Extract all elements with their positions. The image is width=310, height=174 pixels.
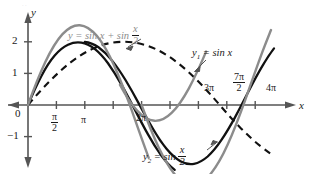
annotation-sum-curve: y = sin x + sin x2	[68, 24, 139, 46]
x-tick-label-pi-over-2: π2	[51, 112, 58, 133]
annotation-sum-den: 2	[132, 36, 139, 47]
x-tick-pi-over-2-den: 2	[51, 123, 58, 133]
annotation-sum-num: x	[132, 24, 139, 36]
x-tick-label-3pi: 3π	[204, 83, 214, 93]
x-tick-label-pi: π	[81, 115, 86, 125]
y-axis-label: y	[31, 7, 36, 18]
annotation-y2-num: x	[178, 145, 185, 157]
scan-artifact-speck: · ·	[22, 3, 27, 8]
annotation-y2-curve: y2 = sin x2	[143, 145, 186, 167]
annotation-y1-curve: y1 = sin x	[192, 48, 232, 61]
annotation-y2-rest: = sin	[151, 151, 178, 162]
x-tick-label-7pi-over-2: 7π2	[233, 72, 245, 93]
y-tick-label-2: 2	[12, 35, 18, 46]
origin-label: 0	[15, 108, 21, 119]
annotation-y2-den: 2	[178, 157, 185, 168]
x-tick-label-2pi: 2π	[136, 113, 146, 123]
x-tick-7pi-over-2-den: 2	[233, 83, 245, 93]
y-tick-label-1: 1	[12, 67, 18, 78]
x-axis-arrow	[285, 101, 296, 108]
annotation-y1-rest: = sin x	[200, 47, 232, 58]
x-axis-label: x	[299, 100, 304, 111]
y-tick-label-neg1: −1	[7, 130, 19, 141]
annotation-sum-prefix: y = sin x + sin	[68, 30, 132, 41]
figure-canvas: 2 1 0 −1 y x π2 π 2π 3π 7π2 4π y = sin x…	[0, 0, 310, 174]
x-tick-label-4pi: 4π	[266, 83, 276, 93]
y-axis-arrow-down	[24, 157, 31, 168]
